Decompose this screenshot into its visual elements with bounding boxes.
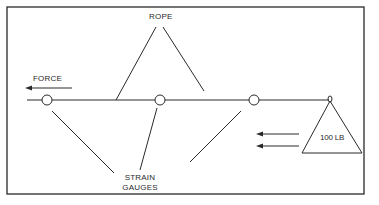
weight-triangle [302,101,362,153]
gauge-leader-3 [190,111,241,162]
rope-label: ROPE [149,12,172,21]
gauge-leader-2 [140,108,157,170]
strain-gauge-2-icon [155,95,165,105]
strain-gauge-1-icon [42,95,52,105]
weight-arrow-1-head-icon [256,132,263,137]
strain-gauges-label-line2: GAUGES [118,183,162,192]
diagram-canvas [0,0,379,205]
weight-label: 100 LB [320,133,344,142]
force-label: FORCE [33,74,62,83]
gauge-leader-1 [52,111,114,173]
strain-gauges-label-line1: STRAIN [118,173,162,182]
force-arrowhead-icon [25,86,32,91]
rope-leader-left [116,27,156,100]
strain-gauge-3-icon [249,95,259,105]
rope-leader-right [163,27,204,91]
weight-arrow-2-head-icon [256,144,263,149]
